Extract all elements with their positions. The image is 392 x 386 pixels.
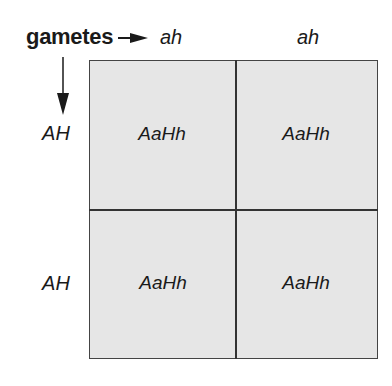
gametes-label: gametes <box>26 24 113 50</box>
column-gamete-2: ah <box>268 26 348 49</box>
column-gamete-1: ah <box>131 26 211 49</box>
cell-r2-c1: AaHh <box>103 272 223 294</box>
row-gamete-2: AH <box>26 272 86 295</box>
grid-divider-horizontal <box>89 209 378 211</box>
arrow-down-icon <box>56 57 70 117</box>
cell-r2-c2: AaHh <box>246 272 366 294</box>
cell-r1-c1: AaHh <box>102 123 222 145</box>
cell-r1-c2: AaHh <box>246 123 366 145</box>
row-gamete-1: AH <box>26 122 86 145</box>
